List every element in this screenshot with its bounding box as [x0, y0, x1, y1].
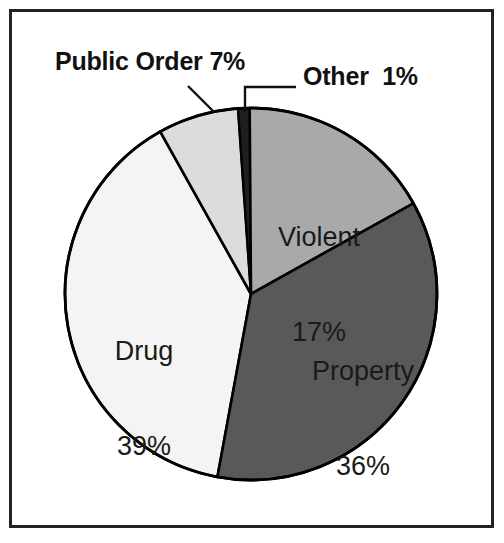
leader-line-public-order	[188, 86, 214, 112]
slice-label-drug-name: Drug	[79, 336, 209, 368]
slice-label-property-name: Property	[288, 356, 438, 388]
pie-chart-figure: Public Order 7% Other 1% Violent 17% Pro…	[0, 0, 504, 543]
slice-label-violent-name: Violent	[259, 222, 379, 254]
slice-label-property: Property 36%	[288, 292, 438, 543]
slice-label-drug-value: 39%	[79, 431, 209, 463]
slice-label-property-value: 36%	[288, 451, 438, 483]
slice-label-drug: Drug 39%	[79, 272, 209, 527]
callout-label-public-order: Public Order 7%	[55, 47, 245, 76]
callout-label-other: Other 1%	[303, 62, 418, 91]
